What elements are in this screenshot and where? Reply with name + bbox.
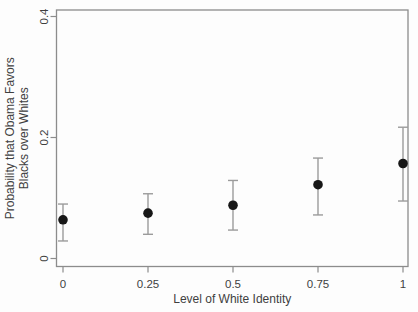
- y-tick-label: 0.2: [38, 130, 50, 146]
- x-tick-label: 0: [60, 278, 66, 290]
- x-axis-title: Level of White Identity: [173, 292, 291, 306]
- x-tick-label: 0.75: [307, 278, 329, 290]
- chart-figure: 00.20.400.250.50.751Level of White Ident…: [0, 0, 418, 312]
- x-tick-label: 1: [400, 278, 406, 290]
- plot-svg: 00.20.400.250.50.751Level of White Ident…: [0, 0, 418, 312]
- data-point: [58, 215, 68, 225]
- x-tick-label: 0.5: [225, 278, 241, 290]
- data-point: [313, 180, 323, 190]
- y-tick-label: 0: [38, 255, 50, 261]
- data-point: [143, 208, 153, 218]
- y-axis-title-line2: Blacks over Whites: [17, 87, 31, 189]
- y-axis-title-line1: Probability that Obama Favors: [3, 57, 17, 219]
- data-point: [398, 159, 408, 169]
- x-tick-label: 0.25: [137, 278, 159, 290]
- y-tick-label: 0.4: [38, 8, 50, 25]
- plot-frame: [57, 10, 409, 267]
- data-point: [228, 200, 238, 210]
